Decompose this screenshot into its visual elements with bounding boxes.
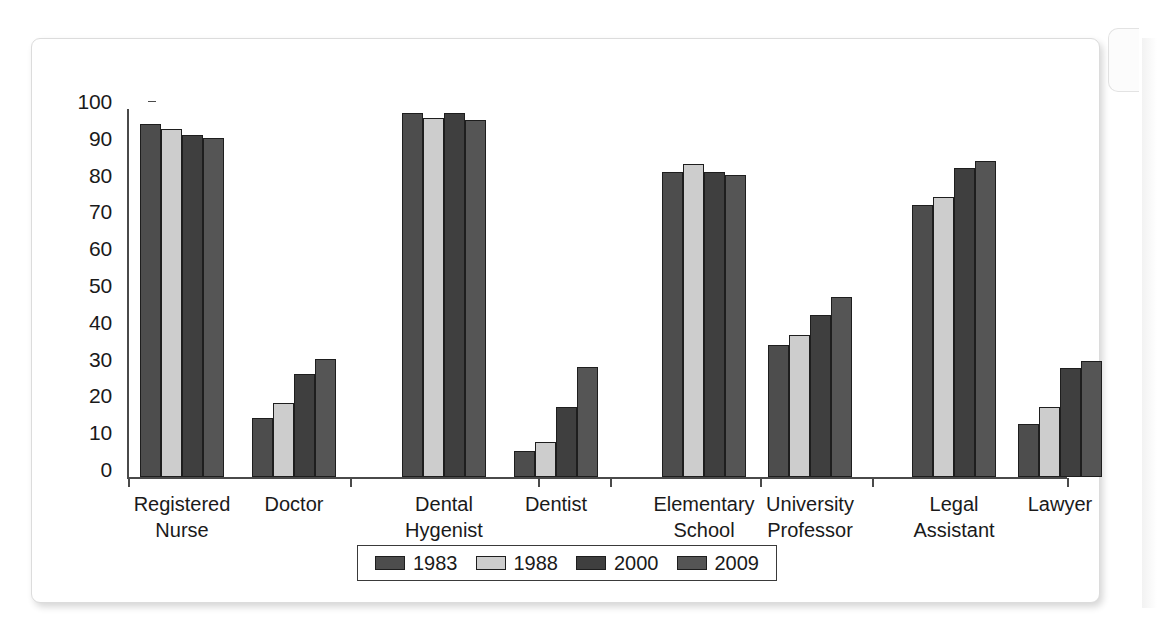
legend-swatch-icon — [576, 556, 606, 570]
bar-2000 — [704, 172, 725, 477]
bar-2000 — [294, 374, 315, 477]
legend-label: 2000 — [614, 553, 659, 573]
bar-1988 — [683, 164, 704, 477]
x-tick-mark — [760, 478, 762, 487]
legend-item-1988[interactable]: 1988 — [476, 553, 559, 573]
bar-2009 — [725, 175, 746, 477]
bar-1983 — [252, 418, 273, 477]
chart-figure-panel: 0102030405060708090100 Registered NurseD… — [31, 38, 1100, 603]
legend-item-2009[interactable]: 2009 — [677, 553, 760, 573]
bar-group — [508, 109, 604, 477]
legend-label: 2009 — [715, 553, 760, 573]
bar-1983 — [768, 345, 789, 477]
bar-1988 — [933, 197, 954, 477]
bars-plot-area — [128, 109, 1067, 477]
y-tick-label-80: 80 — [89, 164, 112, 185]
y-tick-label-90: 90 — [89, 127, 112, 148]
bar-group — [134, 109, 230, 477]
chart-legend: 1983198820002009 — [357, 545, 777, 581]
bar-2009 — [975, 161, 996, 477]
x-tick-mark — [872, 478, 874, 487]
y-tick-label-100: 100 — [78, 91, 112, 112]
page-edge-shadow — [1142, 38, 1157, 608]
legend-label: 1983 — [413, 553, 458, 573]
x-tick-mark — [128, 478, 130, 487]
legend-swatch-icon — [677, 556, 707, 570]
bar-1983 — [662, 172, 683, 477]
x-tick-mark — [538, 478, 540, 487]
y-tick-mark-100 — [148, 101, 156, 103]
y-tick-label-70: 70 — [89, 201, 112, 222]
legend-label: 1988 — [514, 553, 559, 573]
bar-group — [1012, 109, 1108, 477]
bar-1988 — [535, 442, 556, 477]
y-tick-label-40: 40 — [89, 311, 112, 332]
x-tick-mark — [350, 478, 352, 487]
bar-1983 — [514, 451, 535, 477]
y-tick-label-50: 50 — [89, 275, 112, 296]
bar-group — [906, 109, 1002, 477]
bar-1988 — [161, 129, 182, 477]
page-edge-tab — [1108, 28, 1139, 92]
bar-group — [762, 109, 858, 477]
x-label: Lawyer — [970, 491, 1150, 517]
bar-2000 — [556, 407, 577, 477]
x-tick-mark — [1067, 478, 1069, 487]
bar-2009 — [465, 120, 486, 477]
bar-1988 — [789, 335, 810, 477]
bar-1988 — [1039, 407, 1060, 477]
bar-2000 — [182, 135, 203, 477]
bar-1988 — [273, 403, 294, 477]
bar-group — [396, 109, 492, 477]
bar-2000 — [1060, 368, 1081, 477]
y-tick-label-30: 30 — [89, 348, 112, 369]
bar-1983 — [402, 113, 423, 477]
bar-2009 — [831, 297, 852, 477]
bar-1988 — [423, 118, 444, 477]
legend-swatch-icon — [375, 556, 405, 570]
bar-1983 — [912, 205, 933, 477]
y-tick-label-60: 60 — [89, 238, 112, 259]
x-tick-mark — [610, 478, 612, 487]
bar-2000 — [954, 168, 975, 477]
legend-item-1983[interactable]: 1983 — [375, 553, 458, 573]
legend-item-2000[interactable]: 2000 — [576, 553, 659, 573]
bar-2009 — [577, 367, 598, 477]
y-tick-label-0: 0 — [101, 459, 112, 480]
bar-2009 — [1081, 361, 1102, 477]
bar-2000 — [810, 315, 831, 477]
bar-2009 — [315, 359, 336, 477]
y-tick-label-20: 20 — [89, 385, 112, 406]
bar-2009 — [203, 138, 224, 477]
legend-swatch-icon — [476, 556, 506, 570]
plot-wrapper: 0102030405060708090100 Registered NurseD… — [32, 39, 1101, 604]
bar-group — [246, 109, 342, 477]
bar-2000 — [444, 113, 465, 477]
bar-1983 — [1018, 424, 1039, 477]
bar-group — [656, 109, 752, 477]
bar-1983 — [140, 124, 161, 477]
y-axis-tick-labels: 0102030405060708090100 — [60, 101, 120, 479]
x-axis-line — [127, 477, 1067, 479]
y-tick-label-10: 10 — [89, 422, 112, 443]
